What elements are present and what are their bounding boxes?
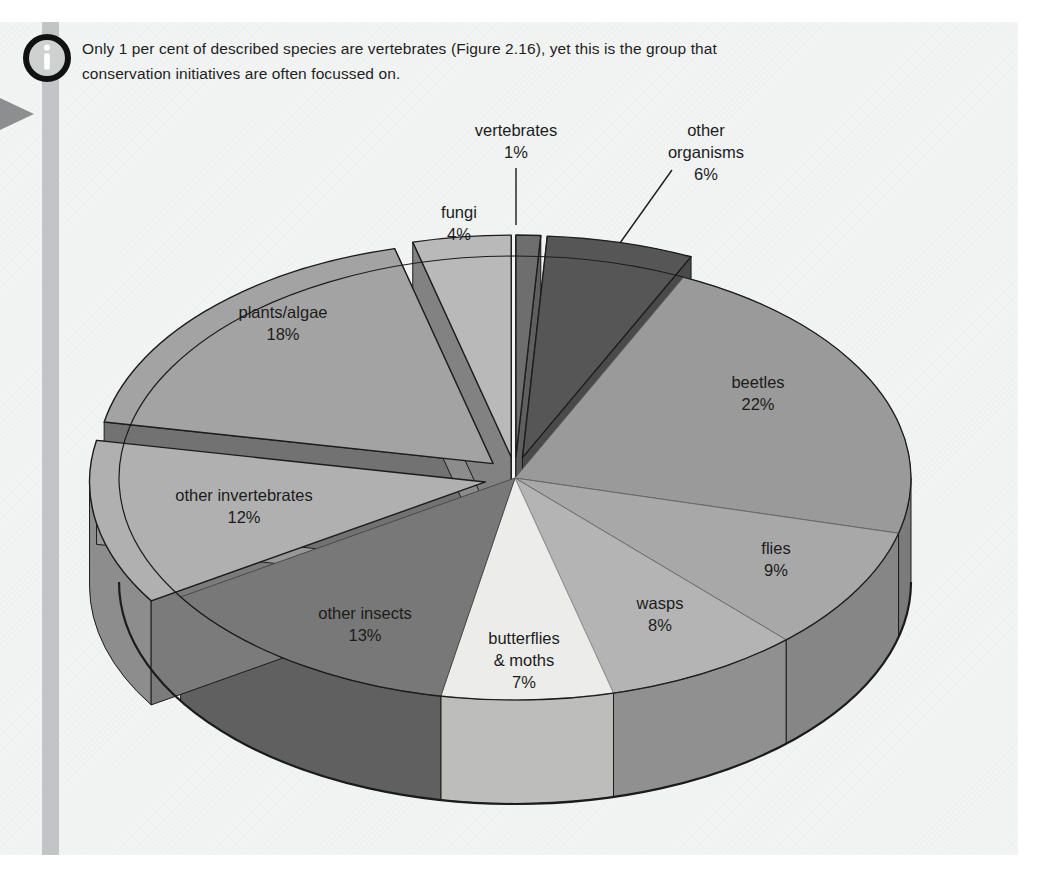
triangle-right-icon: [0, 92, 36, 136]
info-icon: [22, 33, 72, 83]
info-note-line-2: conservation initiatives are often focus…: [82, 61, 782, 86]
info-note: Only 1 per cent of described species are…: [82, 36, 782, 86]
left-margin-rule: [42, 22, 59, 855]
info-note-line-1: Only 1 per cent of described species are…: [82, 36, 782, 61]
page-panel: [0, 22, 1018, 855]
